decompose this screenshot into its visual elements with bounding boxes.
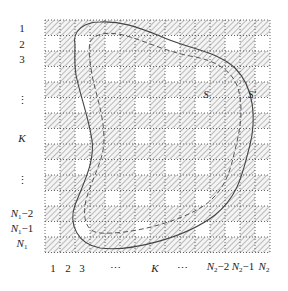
grid-cell [225,36,240,52]
grid-cell [210,160,225,176]
grid-cell [195,175,210,191]
grid-cell [120,191,135,207]
grid-cell [150,175,165,191]
grid-cell [105,98,120,114]
grid-cell [135,206,150,222]
grid-cell [225,129,240,145]
column-label: 3 [79,262,85,274]
grid-cell [240,222,255,238]
column-label: ⋯ [177,262,188,274]
grid-cell [180,237,195,253]
grid-cell [75,36,90,52]
grid-cell [195,20,210,36]
grid-cell [180,67,195,83]
grid-cell [195,113,210,129]
grid-cell [90,36,105,52]
grid-cell [60,222,75,238]
grid-cell [105,191,120,207]
grid-cell [240,191,255,207]
grid-cell [120,113,135,129]
grid-cell [120,36,135,52]
grid-cell [120,206,135,222]
grid-cell [240,206,255,222]
grid-cell [45,144,60,160]
grid-cell [180,51,195,67]
grid-cell [255,237,270,253]
grid-cell [180,206,195,222]
grid-cell [105,237,120,253]
grid-cell [90,237,105,253]
grid-cell [195,160,210,176]
grid-cell [225,206,240,222]
grid-cell [75,129,90,145]
grid-cell [75,206,90,222]
grid-cell [150,160,165,176]
grid-cell [195,144,210,160]
grid-cell [225,191,240,207]
grid-cell [90,222,105,238]
grid-cell [135,129,150,145]
grid-cell [255,160,270,176]
grid-cell [45,36,60,52]
grid-cell [60,36,75,52]
column-label: 2 [65,262,71,274]
grid-cell [195,191,210,207]
grid-cell [105,67,120,83]
row-label: N1 [17,237,28,253]
grid-cell [195,67,210,83]
grid-cell [75,144,90,160]
grid-cell [255,98,270,114]
grid-cell [120,98,135,114]
grid-cell [165,98,180,114]
grid-cell [105,51,120,67]
grid-cell [90,51,105,67]
grid-cell [60,98,75,114]
grid-cell [240,144,255,160]
grid-cell [105,222,120,238]
grid-cell [90,206,105,222]
grid-cell [150,82,165,98]
grid-cell [210,222,225,238]
grid-cell [150,237,165,253]
grid-cell [195,237,210,253]
grid-cell [225,51,240,67]
grid-cell [165,160,180,176]
grid-cell [90,191,105,207]
grid-cell [90,98,105,114]
grid-cell [105,129,120,145]
grid-cell [120,51,135,67]
column-label: N2−1 [232,260,255,276]
grid-cell [210,129,225,145]
grid-cell [225,67,240,83]
grid-cell [60,175,75,191]
grid-cell [60,20,75,36]
grid-cell [135,191,150,207]
grid-cell [60,67,75,83]
grid-cell [105,206,120,222]
grid-cell [240,20,255,36]
grid-cell [195,129,210,145]
grid-cell [210,113,225,129]
grid-cell [45,175,60,191]
grid-cell [120,237,135,253]
grid-cell [210,144,225,160]
row-label: K [18,132,25,144]
grid-cell [60,160,75,176]
grid-cell [105,82,120,98]
grid-cell [180,20,195,36]
grid-cell [45,206,60,222]
grid-cell [210,175,225,191]
grid-cell [135,160,150,176]
grid-cell [180,98,195,114]
grid-cell [120,160,135,176]
grid-cell [255,144,270,160]
column-label: ⋯ [110,262,121,274]
grid-cell [255,175,270,191]
grid-cell [240,51,255,67]
row-label: 1 [19,22,25,34]
grid-cell [210,51,225,67]
row-label: N1−1 [11,222,34,238]
grid-cell [195,206,210,222]
column-label: N2 [259,260,270,276]
grid-cell [45,51,60,67]
